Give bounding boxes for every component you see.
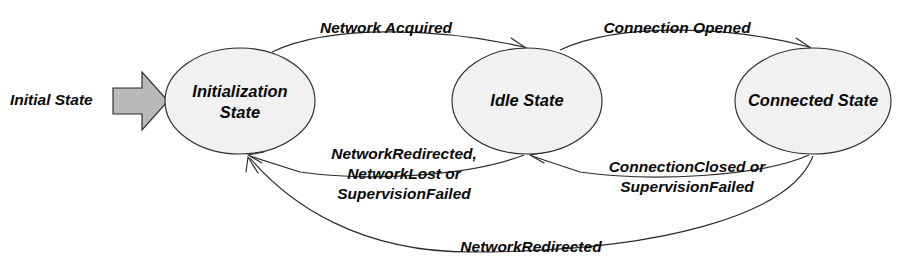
state-connected[interactable]: Connected State [735,48,891,154]
edge-label-idle-to-connected: Connection Opened [603,19,751,36]
edge-label-init-to-idle-line1: Network Acquired [320,19,453,36]
edge-label-idle-to-init: NetworkRedirected, NetworkLost or Superv… [331,145,477,202]
edge-label-idle-to-init-line2: NetworkLost or [347,165,462,182]
initial-state-label: Initial State [10,91,93,108]
state-idle[interactable]: Idle State [452,48,602,154]
edge-label-connected-to-idle-line1: ConnectionClosed or [609,158,767,175]
state-label-idle-line1: Idle State [490,91,563,109]
edge-label-idle-to-init-line1: NetworkRedirected, [331,145,477,162]
initial-state-marker [113,72,168,130]
block-arrow-icon [113,72,168,130]
state-label-initialization-line1: Initialization [192,82,287,100]
edge-label-connected-to-init-line1: NetworkRedirected [460,238,602,255]
state-label-initialization-line2: State [220,103,260,121]
state-label-connected-line1: Connected State [748,91,878,109]
edge-label-connected-to-idle-line2: SupervisionFailed [620,178,754,195]
state-initialization[interactable]: Initialization State [165,48,315,154]
state-diagram-canvas: Initial State Initialization State Idle … [0,0,906,266]
edge-label-init-to-idle: Network Acquired [320,19,453,36]
state-ellipse-initialization[interactable] [165,48,315,154]
edge-label-idle-to-init-line3: SupervisionFailed [337,185,471,202]
state-diagram: Initial State Initialization State Idle … [0,0,906,266]
edge-label-connected-to-init: NetworkRedirected [460,238,602,255]
edge-label-idle-to-connected-line1: Connection Opened [603,19,751,36]
